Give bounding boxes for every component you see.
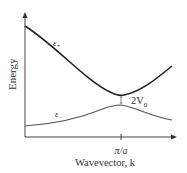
y-axis-arrow-icon <box>23 12 28 18</box>
band-gap-diagram: Energy ε+ ε− 2V0 π/a Wavevector, k <box>0 0 187 173</box>
lower-band-curve <box>25 105 172 126</box>
x-axis-label: Wavevector, k <box>75 157 136 168</box>
y-axis-label: Energy <box>6 58 18 90</box>
gap-label: 2V0 <box>131 95 148 109</box>
lower-band-label: ε− <box>55 109 63 120</box>
x-tick-label: π/a <box>115 145 128 156</box>
upper-band-label: ε+ <box>53 38 61 49</box>
x-axis-arrow-icon <box>171 135 177 140</box>
upper-band-curve <box>25 26 172 95</box>
